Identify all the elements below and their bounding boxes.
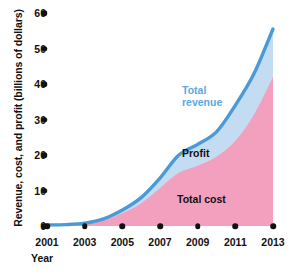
- y-tick-dot-20: [41, 152, 47, 158]
- x-tick-dot-2007: [157, 223, 163, 229]
- y-tick-dot-10: [41, 188, 47, 194]
- x-tick-dot-2003: [82, 223, 88, 229]
- x-tick-label-2005: 2005: [102, 236, 142, 248]
- y-tick-dot-40: [41, 81, 47, 87]
- x-tick-label-2001: 2001: [27, 236, 67, 248]
- x-tick-label-2009: 2009: [178, 236, 218, 248]
- x-tick-label-2003: 2003: [65, 236, 105, 248]
- y-tick-dot-30: [41, 117, 47, 123]
- series-label-total-revenue: Total revenue: [182, 85, 222, 109]
- y-tick-dot-50: [41, 46, 47, 52]
- x-tick-dot-2009: [195, 223, 201, 229]
- x-tick-label-2007: 2007: [140, 236, 180, 248]
- series-label-total-revenue-line1: Total: [182, 84, 206, 96]
- x-tick-dot-2005: [120, 223, 126, 229]
- series-label-total-revenue-line2: revenue: [182, 96, 222, 108]
- x-tick-label-2013: 2013: [253, 236, 293, 248]
- series-label-total-cost: Total cost: [177, 194, 226, 206]
- x-tick-dot-2011: [233, 223, 239, 229]
- chart-container: Revenue, cost, and profit (billions of d…: [0, 0, 296, 279]
- x-tick-dot-2013: [270, 223, 276, 229]
- x-tick-label-2011: 2011: [215, 236, 255, 248]
- x-tick-dot-2001: [44, 223, 50, 229]
- x-axis-title: Year: [31, 252, 53, 264]
- series-label-profit: Profit: [182, 148, 209, 160]
- y-tick-dot-60: [41, 10, 47, 16]
